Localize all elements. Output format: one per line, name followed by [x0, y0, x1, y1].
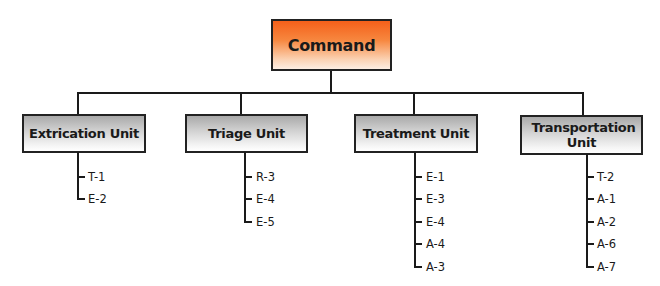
branch-tick — [414, 266, 422, 268]
member-item: E-4 — [256, 192, 275, 206]
unit-label: Treatment Unit — [363, 126, 469, 141]
triage-unit-box: Triage Unit — [185, 114, 308, 153]
member-item: E-2 — [88, 192, 107, 206]
branch-tick — [586, 221, 594, 223]
member-item: A-6 — [597, 237, 616, 251]
triage-drop — [240, 92, 242, 115]
unit-label: Triage Unit — [208, 126, 285, 141]
extrication-unit-box: Extrication Unit — [22, 114, 146, 153]
branch-tick — [414, 243, 422, 245]
member-item: R-3 — [256, 170, 275, 184]
branch-tick — [244, 198, 252, 200]
branch-tick — [244, 221, 252, 223]
transportation-spine — [586, 154, 588, 268]
branch-tick — [586, 198, 594, 200]
member-item: E-4 — [426, 215, 445, 229]
command-box: Command — [271, 19, 392, 71]
branch-tick — [414, 176, 422, 178]
command-label: Command — [288, 38, 376, 53]
transportation-drop — [582, 92, 584, 116]
command-stem — [330, 70, 332, 94]
branch-tick — [586, 176, 594, 178]
branch-tick — [77, 176, 85, 178]
unit-label: Extrication Unit — [29, 126, 139, 141]
branch-tick — [586, 266, 594, 268]
treatment-spine — [414, 152, 416, 268]
member-item: A-3 — [426, 260, 445, 274]
transportation-unit-box: Transportation Unit — [520, 115, 643, 155]
triage-spine — [244, 152, 246, 223]
member-item: E-3 — [426, 192, 445, 206]
member-item: E-1 — [426, 170, 445, 184]
treatment-unit-box: Treatment Unit — [354, 114, 478, 153]
branch-tick — [414, 198, 422, 200]
branch-tick — [77, 198, 85, 200]
branch-tick — [586, 243, 594, 245]
member-item: A-4 — [426, 237, 445, 251]
member-item: E-5 — [256, 215, 275, 229]
unit-label: Transportation Unit — [532, 120, 632, 150]
member-item: T-2 — [597, 170, 614, 184]
treatment-drop — [413, 92, 415, 115]
horizontal-bus — [77, 92, 584, 94]
member-item: A-2 — [597, 215, 616, 229]
member-item: A-1 — [597, 192, 616, 206]
member-item: A-7 — [597, 260, 616, 274]
branch-tick — [244, 176, 252, 178]
branch-tick — [414, 221, 422, 223]
extrication-drop — [77, 92, 79, 115]
member-item: T-1 — [88, 170, 105, 184]
